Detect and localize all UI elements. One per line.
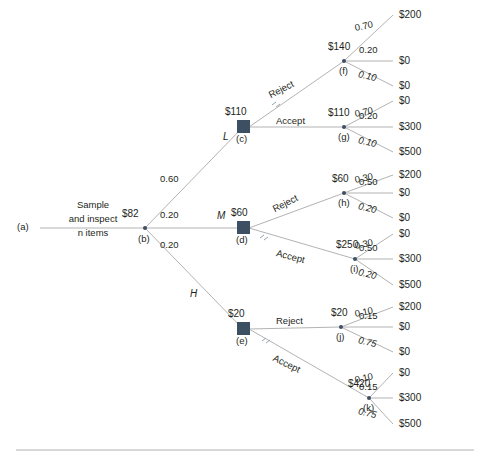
sample-line-3: n items — [46, 226, 140, 240]
node-label-b: (b) — [138, 234, 150, 245]
state-label-L: L — [223, 131, 229, 143]
chance-node-k — [367, 396, 371, 400]
outcome-prob-k-2: 0.15 — [359, 382, 378, 393]
chance-node-j-ev: $20 — [331, 307, 348, 319]
state-label-M: M — [217, 210, 225, 222]
outcome-payoff-k-3: $500 — [399, 418, 421, 430]
node-label-f: (f) — [339, 66, 348, 77]
chance-node-f — [342, 59, 346, 63]
chance-node-j — [339, 325, 343, 329]
outcome-payoff-g-1: $0 — [399, 95, 410, 107]
chance-node-i — [353, 257, 357, 261]
outcome-payoff-i-2: $300 — [399, 253, 421, 265]
outcome-payoff-j-1: $200 — [399, 301, 421, 313]
sample-items-text: items — [83, 227, 108, 238]
state-label-H: H — [190, 288, 197, 300]
outcome-payoff-k-1: $0 — [399, 367, 410, 379]
decision-tree-figure: (a) Sample and inspect n items $82 (b) 0… — [0, 0, 490, 459]
chance-node-f-ev: $140 — [328, 41, 350, 53]
branch-probability-M: 0.20 — [160, 210, 179, 221]
outcome-payoff-h-2: $0 — [399, 187, 410, 199]
decision-option-H-reject: Reject — [276, 316, 303, 327]
decision-node-e-ev: $20 — [228, 308, 245, 320]
outcome-payoff-j-2: $0 — [399, 321, 410, 333]
outcome-payoff-h-3: $0 — [399, 212, 410, 224]
chance-node-b — [143, 226, 147, 230]
node-label-g: (g) — [338, 132, 350, 143]
outcome-payoff-f-1: $200 — [399, 9, 421, 21]
node-label-j: (j) — [336, 332, 344, 343]
decision-node-d-ev: $60 — [231, 207, 248, 219]
outcome-payoff-j-3: $0 — [399, 346, 410, 358]
outcome-payoff-h-1: $200 — [399, 169, 421, 181]
chance-node-h-ev: $60 — [332, 173, 349, 185]
node-label-a: (a) — [17, 222, 29, 233]
chance-node-h — [342, 191, 346, 195]
outcome-payoff-g-2: $300 — [399, 121, 421, 133]
branch-probability-H: 0.20 — [160, 240, 179, 251]
node-label-h: (h) — [338, 198, 350, 209]
outcome-prob-h-2: 0.50 — [359, 177, 378, 188]
decision-node-c-ev: $110 — [225, 106, 247, 118]
node-label-c: (c) — [236, 134, 247, 145]
branch-probability-L: 0.60 — [160, 174, 179, 185]
outcome-prob-g-2: 0.20 — [359, 111, 378, 122]
outcome-prob-i-2: 0.50 — [359, 243, 378, 254]
outcome-payoff-k-2: $300 — [399, 392, 421, 404]
chance-node-g — [342, 125, 346, 129]
node-label-d: (d) — [236, 235, 248, 246]
node-label-e: (e) — [236, 336, 248, 347]
outcome-prob-f-2: 0.20 — [359, 45, 378, 56]
decision-node-e — [237, 322, 250, 335]
decision-option-L-accept: Accept — [276, 116, 305, 127]
outcome-payoff-g-3: $500 — [399, 146, 421, 158]
outcome-payoff-f-2: $0 — [399, 55, 410, 67]
decision-node-c — [237, 120, 250, 133]
outcome-prob-j-2: 0.15 — [359, 311, 378, 322]
outcome-payoff-f-3: $0 — [399, 80, 410, 92]
outcome-payoff-i-1: $0 — [399, 228, 410, 240]
decision-node-d — [237, 221, 250, 234]
outcome-payoff-i-3: $500 — [399, 279, 421, 291]
root-ev-value: $82 — [122, 208, 139, 220]
chance-node-g-ev: $110 — [328, 107, 350, 119]
